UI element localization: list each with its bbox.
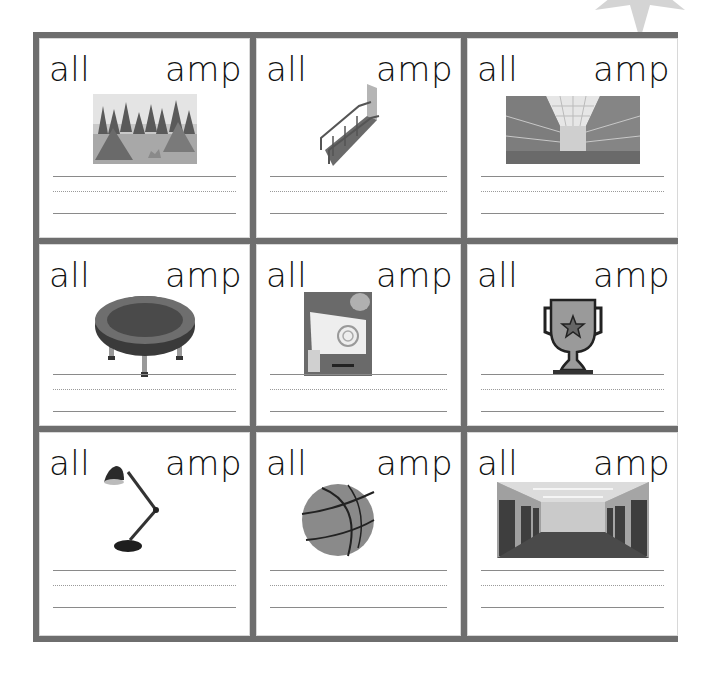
top-line [481,570,664,571]
top-line [481,176,664,177]
trophy-icon [539,296,607,376]
baseline [270,411,447,412]
handwriting-lines [270,570,447,608]
baseline [481,213,664,214]
top-line [481,374,664,375]
baseline [481,607,664,608]
midline [481,389,664,390]
midline [53,191,236,192]
handwriting-lines [481,570,664,608]
trampoline-icon [93,294,197,378]
word-family-amp: amp [165,258,242,292]
word-family-all: all [266,446,307,480]
baseline [53,607,236,608]
word-family-amp: amp [376,52,453,86]
worksheet-cell: all amp [256,38,461,238]
word-family-all: all [477,258,518,292]
word-family-amp: amp [165,52,242,86]
handwriting-lines [53,570,236,608]
top-line [53,570,236,571]
top-line [270,374,447,375]
word-family-all: all [477,52,518,86]
top-line [270,176,447,177]
handwriting-lines [53,374,236,412]
lamp-icon [100,460,164,554]
handwriting-lines [53,176,236,214]
midline [270,191,447,192]
midline [481,585,664,586]
top-line [53,374,236,375]
midline [481,191,664,192]
baseline [53,213,236,214]
worksheet-cell: all amp [467,432,678,636]
word-family-all: all [266,258,307,292]
word-family-all: all [477,446,518,480]
word-family-amp: amp [593,258,670,292]
handwriting-lines [270,374,447,412]
handwriting-lines [481,176,664,214]
handwriting-lines [481,374,664,412]
worksheet-cell: all amp [39,38,250,238]
top-line [270,570,447,571]
worksheet-cell: all amp [256,244,461,426]
word-family-amp: amp [593,52,670,86]
ramp-icon [315,80,385,172]
word-family-all: all [49,52,90,86]
word-family-amp: amp [165,446,242,480]
midline [53,389,236,390]
baseline [270,213,447,214]
word-family-amp: amp [593,446,670,480]
worksheet-cell: all amp [467,244,678,426]
worksheet-cell: all amp [39,432,250,636]
worksheet-cell: all amp [39,244,250,426]
word-family-amp: amp [376,258,453,292]
baseline [481,411,664,412]
word-family-all: all [49,446,90,480]
handwriting-lines [270,176,447,214]
worksheet-grid: all amp all amp [33,32,678,642]
baseline [270,607,447,608]
worksheet-cell: all amp [256,432,461,636]
camp-icon [93,94,197,164]
stamp-icon [304,292,372,376]
mall-icon [506,96,640,164]
midline [53,585,236,586]
midline [270,389,447,390]
word-family-amp: amp [376,446,453,480]
top-line [53,176,236,177]
worksheet-cell: all amp [467,38,678,238]
baseline [53,411,236,412]
word-family-all: all [49,258,90,292]
midline [270,585,447,586]
hall-icon [497,482,649,558]
word-family-all: all [266,52,307,86]
ball-icon [300,482,376,558]
